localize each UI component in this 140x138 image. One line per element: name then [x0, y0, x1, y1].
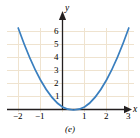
y-tick-label-2: 2: [54, 79, 59, 88]
y-tick-label-4: 4: [54, 53, 59, 62]
curve-parabola: [18, 28, 129, 110]
y-tick-label-6: 6: [54, 27, 59, 36]
y-axis: [59, 11, 66, 110]
x-tick-label-minus-1: −1: [35, 112, 45, 121]
x-tick-label-3: 3: [126, 112, 131, 121]
y-axis-label: y: [65, 4, 69, 14]
y-tick-label-1: 1: [55, 92, 60, 101]
x-axis-label: x: [133, 105, 137, 115]
y-tick-label-3: 3: [54, 66, 59, 75]
y-tick-label-5: 5: [54, 40, 59, 49]
graph-figure: y x 6 5 4 3 2 1 −2 −1 1 2 3 (e): [0, 0, 140, 138]
x-tick-label-2: 2: [104, 112, 109, 121]
figure-caption: (e): [0, 124, 140, 134]
x-tick-label-1: 1: [82, 112, 87, 121]
x-tick-label-minus-2: −2: [13, 112, 23, 121]
